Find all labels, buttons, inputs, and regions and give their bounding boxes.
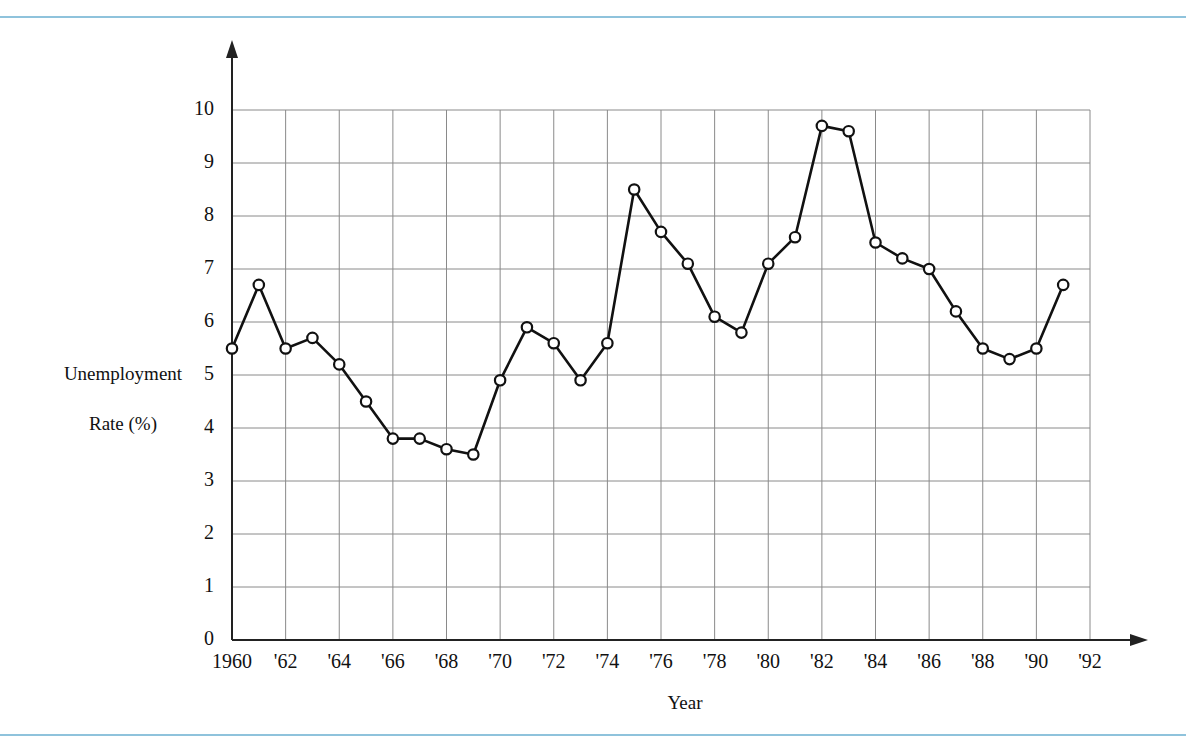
data-point-marker <box>817 121 827 131</box>
grid-lines <box>232 110 1090 640</box>
y-axis-arrowhead <box>226 40 238 58</box>
data-point-marker <box>763 259 773 269</box>
data-point-marker <box>736 327 746 337</box>
data-point-marker <box>307 333 317 343</box>
y-axis-tick-label: 2 <box>174 521 214 544</box>
x-axis-tick-label: '92 <box>1055 650 1125 673</box>
y-axis-tick-label: 10 <box>174 97 214 120</box>
data-point-marker <box>656 227 666 237</box>
data-point-marker <box>1058 280 1068 290</box>
data-point-marker <box>522 322 532 332</box>
x-axis-title: Year <box>620 690 750 715</box>
data-point-marker <box>549 338 559 348</box>
y-axis-tick-label: 0 <box>174 627 214 650</box>
y-axis-title: Unemployment Rate (%) <box>28 336 218 461</box>
data-point-marker <box>227 343 237 353</box>
axes <box>226 40 1148 646</box>
data-point-marker <box>924 264 934 274</box>
data-point-marker <box>388 433 398 443</box>
data-point-marker <box>1004 354 1014 364</box>
x-axis-arrowhead <box>1130 634 1148 646</box>
data-line-unemployment-rate <box>232 126 1063 455</box>
data-point-marker <box>870 237 880 247</box>
y-axis-tick-label: 8 <box>174 203 214 226</box>
bottom-divider-rule <box>0 734 1186 736</box>
y-axis-tick-label: 5 <box>174 362 214 385</box>
line-chart-figure: Unemployment Rate (%) Year 0123456789101… <box>0 18 1186 734</box>
data-point-marker <box>951 306 961 316</box>
data-point-marker <box>629 184 639 194</box>
y-axis-tick-label: 4 <box>174 415 214 438</box>
data-point-marker <box>683 259 693 269</box>
y-axis-tick-label: 3 <box>174 468 214 491</box>
data-point-marker <box>843 126 853 136</box>
y-axis-tick-label: 6 <box>174 309 214 332</box>
data-point-marker <box>468 449 478 459</box>
y-axis-tick-label: 9 <box>174 150 214 173</box>
data-point-marker <box>280 343 290 353</box>
data-point-marker <box>978 343 988 353</box>
data-point-marker <box>897 253 907 263</box>
data-point-marker <box>441 444 451 454</box>
y-axis-tick-label: 1 <box>174 574 214 597</box>
data-point-marker <box>414 433 424 443</box>
figure-page: Unemployment Rate (%) Year 0123456789101… <box>0 0 1186 755</box>
data-point-marker <box>602 338 612 348</box>
data-point-marker <box>790 232 800 242</box>
data-point-marker <box>334 359 344 369</box>
data-point-marker <box>575 375 585 385</box>
data-point-marker <box>495 375 505 385</box>
data-point-marker <box>361 396 371 406</box>
data-point-marker <box>1031 343 1041 353</box>
data-point-marker <box>254 280 264 290</box>
y-axis-tick-label: 7 <box>174 256 214 279</box>
data-point-marker <box>709 312 719 322</box>
